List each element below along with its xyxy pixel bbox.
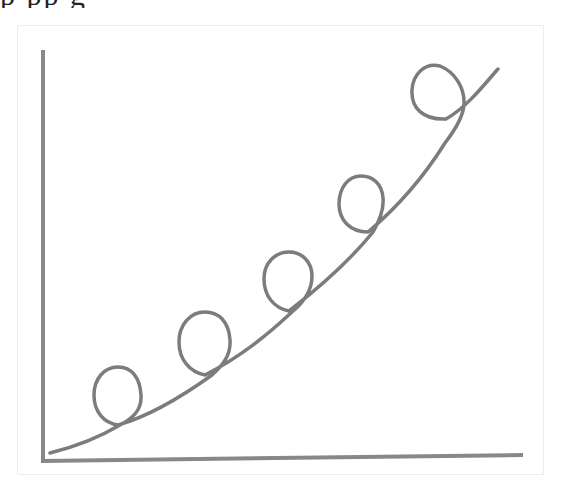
x-axis xyxy=(41,455,523,461)
axes xyxy=(41,50,523,462)
loop-curve-diagram xyxy=(0,0,562,493)
looped-curve xyxy=(50,65,498,453)
